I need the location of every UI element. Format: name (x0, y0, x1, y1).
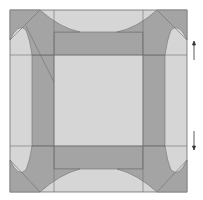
arrow-down-icon (193, 131, 196, 150)
bottom-rect (54, 146, 143, 169)
top-rect (54, 32, 143, 55)
arrow-up-icon (193, 41, 196, 60)
right-rect (143, 55, 165, 146)
quilt-block-diagram (0, 0, 203, 200)
left-rect (32, 55, 54, 146)
